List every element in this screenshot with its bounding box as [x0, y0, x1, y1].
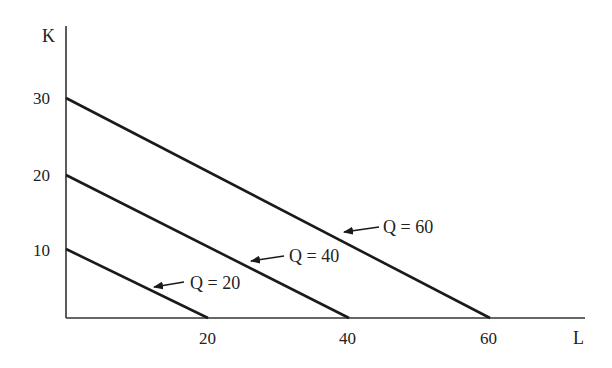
- label-q60: Q = 60: [383, 217, 433, 237]
- x-axis-label: L: [573, 328, 584, 348]
- isoquant-chart: K L 30 20 10 20 40 60 Q = 20 Q = 40 Q = …: [0, 0, 612, 368]
- x-tick-60: 60: [480, 329, 497, 348]
- y-tick-10: 10: [33, 241, 50, 260]
- x-tick-20: 20: [199, 329, 216, 348]
- arrow-q20-icon: [154, 282, 184, 287]
- y-axis-label: K: [42, 26, 55, 46]
- x-tick-40: 40: [339, 329, 356, 348]
- arrow-q40-icon: [251, 256, 284, 261]
- label-q40: Q = 40: [289, 246, 339, 266]
- y-tick-20: 20: [33, 166, 50, 185]
- y-tick-30: 30: [33, 89, 50, 108]
- isoquant-q20: [66, 249, 208, 318]
- arrow-q60-icon: [344, 227, 379, 232]
- label-q20: Q = 20: [190, 273, 240, 293]
